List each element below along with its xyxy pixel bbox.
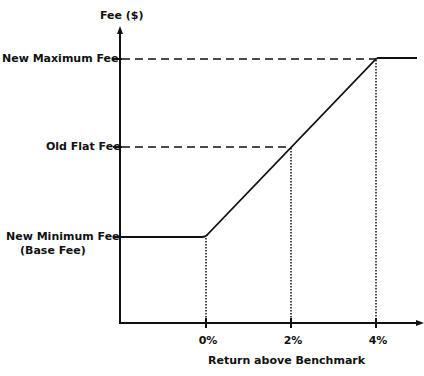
x-tick-label-4: 4%	[369, 334, 388, 347]
x-axis-title: Return above Benchmark	[208, 355, 365, 367]
x-axis-arrow-icon	[416, 320, 424, 326]
min-fee-label: New Minimum Fee	[6, 231, 120, 243]
y-axis-arrow-icon	[117, 26, 123, 34]
min-fee-sublabel: (Base Fee)	[20, 245, 86, 257]
old-fee-label: Old Flat Fee	[46, 141, 121, 153]
x-tick-label-0: 0%	[199, 334, 218, 347]
x-tick-label-2: 2%	[284, 334, 303, 347]
max-fee-label: New Maximum Fee	[2, 53, 118, 65]
y-axis-title: Fee ($)	[100, 10, 144, 22]
